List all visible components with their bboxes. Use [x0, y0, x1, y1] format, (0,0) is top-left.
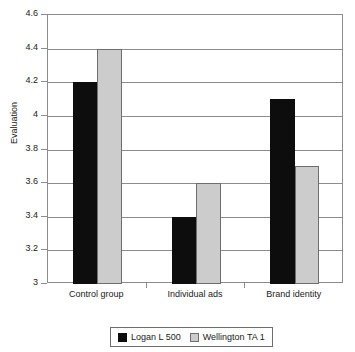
- y-tick-label: 3.2: [0, 244, 38, 253]
- bar: [172, 217, 197, 284]
- legend-swatch-icon: [190, 333, 199, 342]
- y-tick-label: 4.4: [0, 43, 38, 52]
- y-tick-mark: [41, 115, 47, 116]
- bar: [295, 166, 320, 284]
- legend-entry: Logan L 500: [118, 332, 181, 342]
- chart-legend: Logan L 500Wellington TA 1: [110, 327, 273, 347]
- y-tick-label: 3: [0, 278, 38, 287]
- bar: [97, 49, 122, 284]
- y-tick-label: 4.6: [0, 9, 38, 18]
- y-tick-label: 4: [0, 110, 38, 119]
- category-tick: [244, 283, 245, 288]
- y-tick-mark: [41, 182, 47, 183]
- legend-label: Logan L 500: [131, 332, 181, 342]
- bar: [196, 183, 221, 284]
- y-tick-mark: [41, 81, 47, 82]
- y-tick-label: 3.4: [0, 211, 38, 220]
- x-tick-label: Individual ads: [146, 289, 245, 300]
- x-tick-label: Brand identity: [244, 289, 343, 300]
- y-tick-mark: [41, 149, 47, 150]
- bar-chart: Evaluation 33.23.43.63.844.24.44.6 Contr…: [0, 0, 355, 352]
- y-tick-label: 3.6: [0, 177, 38, 186]
- legend-entry: Wellington TA 1: [190, 332, 265, 342]
- x-tick-label: Control group: [47, 289, 146, 300]
- bar: [73, 82, 98, 284]
- y-tick-mark: [41, 14, 47, 15]
- y-tick-mark: [41, 216, 47, 217]
- y-tick-label: 4.2: [0, 76, 38, 85]
- legend-swatch-icon: [118, 333, 127, 342]
- y-tick-mark: [41, 283, 47, 284]
- legend-label: Wellington TA 1: [203, 332, 265, 342]
- plot-area: [47, 14, 343, 283]
- bar: [270, 99, 295, 284]
- category-tick: [146, 283, 147, 288]
- gridline: [48, 49, 342, 50]
- y-tick-mark: [41, 48, 47, 49]
- y-tick-mark: [41, 249, 47, 250]
- y-tick-label: 3.8: [0, 144, 38, 153]
- y-axis-title: Evaluation: [9, 73, 19, 173]
